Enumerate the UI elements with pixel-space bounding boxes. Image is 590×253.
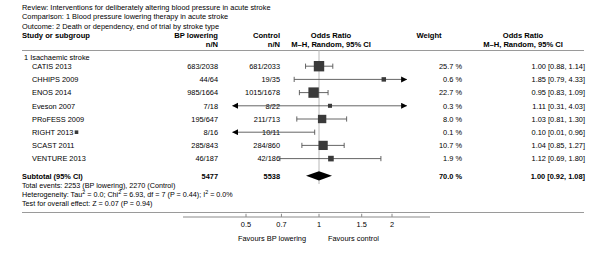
table-row: CATIS 2013683/2038681/203325.7 %1.00 [0.… — [0, 62, 590, 75]
row-weight: 0.6 % — [400, 75, 462, 84]
row-weight: 1.9 % — [400, 154, 462, 163]
review-line: Review: Interventions for deliberately a… — [22, 3, 582, 12]
row-odds-ratio: 0.95 [0.83, 1.09] — [470, 88, 585, 97]
row-control-nn: 211/713 — [222, 115, 280, 124]
table-row: PRoFESS 2009195/647211/7138.0 %1.03 [0.8… — [0, 115, 590, 128]
row-control-nn: 19/35 — [222, 75, 280, 84]
row-bp-nn: 683/2038 — [130, 62, 218, 71]
comparison-line: Comparison: 1 Blood pressure lowering th… — [22, 12, 582, 21]
row-control-nn: 1015/1678 — [222, 88, 280, 97]
axis-tick-1: 1 — [306, 220, 332, 229]
review-metadata: Review: Interventions for deliberately a… — [22, 3, 582, 31]
row-weight: 10.7 % — [400, 141, 462, 150]
row-control-nn: 681/2033 — [222, 62, 280, 71]
row-weight: 8.0 % — [400, 115, 462, 124]
footer-divider — [22, 212, 584, 213]
row-weight: 0.3 % — [400, 102, 462, 111]
row-odds-ratio: 1.12 [0.69, 1.80] — [470, 154, 585, 163]
row-odds-ratio: 1.04 [0.85, 1.27] — [470, 141, 585, 150]
het-part-2: = 0.0; Chi — [85, 190, 118, 199]
overall-effect-line: Test for overall effect: Z = 0.07 (P = 0… — [22, 199, 152, 208]
total-events-line: Total events: 2253 (BP lowering), 2270 (… — [22, 181, 175, 190]
outcome-line: Outcome: 2 Death or dependency, end of t… — [22, 22, 582, 31]
row-control-nn: 8/22 — [222, 102, 280, 111]
row-bp-nn: 195/647 — [130, 115, 218, 124]
row-bp-nn: 7/18 — [130, 102, 218, 111]
row-control-nn: 42/186 — [222, 154, 280, 163]
table-row: Eveson 20077/188/220.3 %1.11 [0.31, 4.03… — [0, 102, 590, 115]
row-odds-ratio: 1.00 [0.88, 1.14] — [470, 62, 585, 71]
header-weight: Weight — [398, 31, 460, 40]
header-odds-ratio-left: Odds Ratio — [268, 31, 394, 40]
header-divider — [22, 50, 584, 51]
row-odds-ratio: 1.11 [0.31, 4.03] — [470, 102, 585, 111]
table-row: VENTURE 201346/18742/1861.9 %1.12 [0.69,… — [0, 154, 590, 167]
row-weight: 25.7 % — [400, 62, 462, 71]
het-part-1: Heterogeneity: Tau — [22, 190, 82, 199]
axis-tick-2: 2 — [379, 220, 405, 229]
favours-bp-lowering-label: Favours BP lowering — [238, 234, 306, 243]
axis-tick-0.7: 0.7 — [268, 220, 294, 229]
het-part-3: = 6.93, df = 7 (P = 0.44); I — [121, 190, 205, 199]
row-bp-nn: 985/1664 — [130, 88, 218, 97]
header-or-method-left: M–H, Random, 95% CI — [268, 40, 394, 49]
header-bp-lowering: BP lowering — [130, 31, 218, 40]
forest-plot-page: Review: Interventions for deliberately a… — [0, 0, 590, 253]
favours-control-label: Favours control — [328, 234, 379, 243]
row-bp-nn: 5477 — [130, 172, 218, 181]
header-odds-ratio-right: Odds Ratio — [460, 31, 586, 40]
axis-tick-0.5: 0.5 — [233, 220, 259, 229]
table-row: CHHIPS 200944/6419/350.6 %1.85 [0.79, 4.… — [0, 75, 590, 88]
table-row: RIGHT 20138/1610/110.1 %0.10 [0.01, 0.96… — [0, 128, 590, 141]
heterogeneity-line: Heterogeneity: Tau2 = 0.0; Chi2 = 6.93, … — [22, 190, 233, 199]
row-bp-nn: 8/16 — [130, 128, 218, 137]
row-control-nn: 10/11 — [222, 128, 280, 137]
subgroup-heading: 1 Isachaemic stroke — [24, 53, 90, 62]
axis-tick-1.5: 1.5 — [349, 220, 375, 229]
header-bp-nn: n/N — [130, 40, 218, 49]
table-row: SCAST 2011285/843284/86010.7 %1.04 [0.85… — [0, 141, 590, 154]
header-or-method-right: M–H, Random, 95% CI — [460, 40, 586, 49]
row-weight: 0.1 % — [400, 128, 462, 137]
row-control-nn: 284/860 — [222, 141, 280, 150]
row-weight: 22.7 % — [400, 88, 462, 97]
row-odds-ratio: 1.85 [0.79, 4.33] — [470, 75, 585, 84]
row-odds-ratio: 0.10 [0.01, 0.96] — [470, 128, 585, 137]
het-part-4: = 0.0% — [208, 190, 233, 199]
row-odds-ratio: 1.00 [0.92, 1.08] — [470, 172, 585, 181]
row-odds-ratio: 1.03 [0.81, 1.30] — [470, 115, 585, 124]
row-bp-nn: 46/187 — [130, 154, 218, 163]
row-bp-nn: 44/64 — [130, 75, 218, 84]
table-row: ENOS 2014985/16641015/167822.7 %0.95 [0.… — [0, 88, 590, 101]
row-weight: 70.0 % — [400, 172, 462, 181]
row-control-nn: 5538 — [222, 172, 280, 181]
row-bp-nn: 285/843 — [130, 141, 218, 150]
